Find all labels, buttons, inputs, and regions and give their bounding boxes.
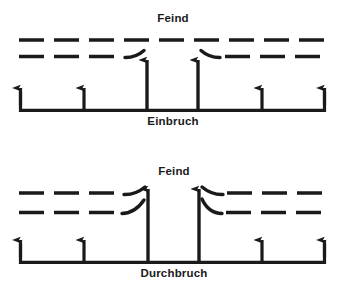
enemy-line-2-right: [201, 51, 327, 58]
label-feind-bottom: Feind: [158, 166, 190, 178]
label-einbruch: Einbruch: [147, 116, 198, 128]
penetration-arrows: [147, 60, 198, 110]
enemy-line-2-right: [202, 199, 327, 214]
diagram-canvas: [0, 0, 343, 296]
enemy-line-1-right: [202, 187, 327, 195]
label-feind-top: Feind: [157, 13, 189, 25]
breakthrough-arrows: [148, 189, 199, 262]
panel-einbruch: [19, 40, 327, 110]
own-front-baseline: [21, 244, 325, 262]
own-front-baseline: [21, 92, 325, 110]
attack-arrows-short: [21, 88, 325, 109]
enemy-line-1-left: [19, 187, 145, 195]
panel-durchbruch: [19, 187, 327, 262]
enemy-line-2-left: [19, 51, 144, 58]
attack-arrows-short: [21, 240, 325, 261]
tactical-diagram-figure: Feind Einbruch Feind Durchbruch: [0, 0, 343, 296]
label-durchbruch: Durchbruch: [140, 268, 207, 280]
enemy-line-2-left: [19, 200, 144, 214]
